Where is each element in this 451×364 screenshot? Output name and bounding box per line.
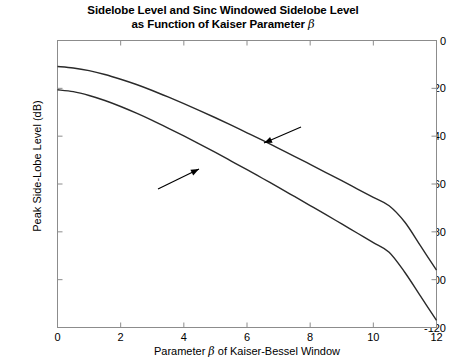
axes-frame — [58, 41, 437, 328]
